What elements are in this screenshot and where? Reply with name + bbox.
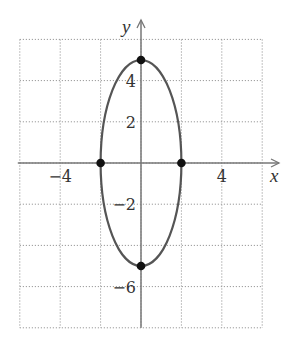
y-tick-label: 4 [126,72,136,91]
y-axis-label: y [120,16,131,37]
y-tick-label: −6 [112,278,136,297]
y-tick-label: 2 [126,113,136,132]
ellipse-chart: −4442−2−6 x y [0,0,296,355]
data-point [177,159,186,168]
x-tick-label: 4 [217,167,227,186]
y-tick-label: −2 [112,195,136,214]
data-point [137,56,146,65]
tick-labels: −4442−2−6 [48,72,226,297]
x-axis-label: x [269,165,279,186]
x-tick-label: −4 [48,167,72,186]
data-point [137,262,146,271]
data-point [96,159,105,168]
